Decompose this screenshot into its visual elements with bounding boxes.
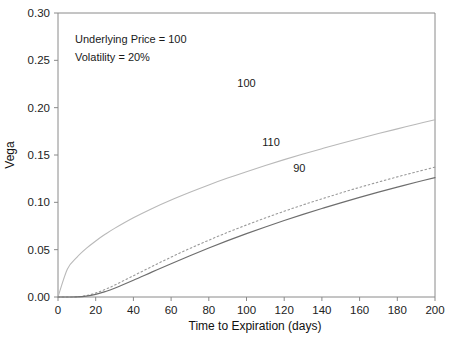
y-tick-label: 0.05 [28, 244, 50, 256]
curve-label-90: 90 [293, 162, 305, 174]
y-tick-label: 0.00 [28, 291, 50, 303]
x-tick-label: 120 [275, 304, 294, 316]
curve-90 [58, 178, 435, 297]
y-tick-label: 0.10 [28, 196, 50, 208]
y-axis-title: Vega [3, 141, 17, 169]
x-axis-title: Time to Expiration (days) [189, 319, 322, 333]
x-tick-label: 140 [312, 304, 331, 316]
x-tick-label: 100 [237, 304, 256, 316]
x-tick-label: 80 [202, 304, 215, 316]
x-tick-label: 40 [127, 304, 140, 316]
curve-110 [58, 167, 435, 297]
y-tick-label: 0.20 [28, 102, 50, 114]
y-tick-label: 0.25 [28, 54, 50, 66]
x-axis-ticks: 020406080100120140160180200 [55, 297, 445, 316]
curve-label-110: 110 [262, 136, 280, 148]
x-tick-label: 160 [350, 304, 369, 316]
y-tick-label: 0.15 [28, 149, 50, 161]
x-tick-label: 20 [89, 304, 102, 316]
data-curves [58, 120, 435, 297]
chart-svg: 0.000.050.100.150.200.250.30 02040608010… [0, 0, 450, 338]
curve-100 [58, 120, 435, 297]
annotation-volatility: Volatility = 20% [75, 51, 150, 63]
annotation-underlying-price: Underlying Price = 100 [75, 33, 187, 45]
curve-labels: 10011090 [237, 77, 305, 174]
x-tick-label: 180 [388, 304, 407, 316]
x-tick-label: 60 [165, 304, 178, 316]
vega-chart-figure: 0.000.050.100.150.200.250.30 02040608010… [0, 0, 450, 338]
x-tick-label: 200 [425, 304, 444, 316]
y-tick-label: 0.30 [28, 7, 50, 19]
y-axis-ticks: 0.000.050.100.150.200.250.30 [28, 7, 58, 303]
x-tick-label: 0 [55, 304, 61, 316]
curve-label-100: 100 [237, 77, 255, 89]
